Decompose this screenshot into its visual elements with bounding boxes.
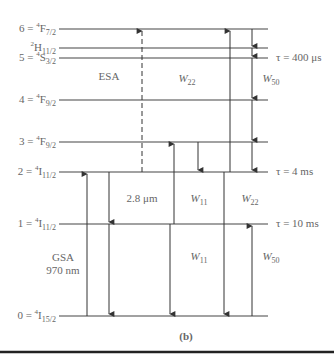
lifetime-4ms: τ = 4 ms <box>276 165 313 177</box>
level-3-label: 3 = 4F9/2 <box>19 134 56 150</box>
w22-upper-label: W22 <box>178 72 195 87</box>
w50-upper-label: W50 <box>262 72 279 87</box>
wavelength-2.8um-label: 2.8 μm <box>127 192 158 204</box>
w50-low-label: W50 <box>262 250 279 265</box>
lifetime-400us: τ = 400 μs <box>276 51 322 63</box>
w22-mid-label: W22 <box>241 192 258 207</box>
panel-label: (b) <box>179 330 193 343</box>
energy-level-diagram: 6 = 4F7/2 2H11/2 5 = 4S3/2 4 = 4F9/2 3 =… <box>0 0 334 361</box>
level-2-label: 2 = 4I11/2 <box>18 164 56 180</box>
lifetime-10ms: τ = 10 ms <box>276 217 319 229</box>
transition-labels: ESA W22 W50 2.8 μm W11 W22 GSA 970 nm W1… <box>46 70 279 276</box>
level-labels: 6 = 4F7/2 2H11/2 5 = 4S3/2 4 = 4F9/2 3 =… <box>17 21 56 324</box>
w11-low-label: W11 <box>191 250 208 265</box>
lifetime-labels: τ = 400 μs τ = 4 ms τ = 10 ms <box>276 51 322 229</box>
level-0-label: 0 = 4I15/2 <box>17 308 56 324</box>
level-4-label: 4 = 4F9/2 <box>19 92 56 108</box>
gsa-label: GSA <box>52 251 74 263</box>
level-6-label: 6 = 4F7/2 <box>19 21 56 37</box>
esa-label: ESA <box>99 70 120 82</box>
level-1-label: 1 = 4I11/2 <box>18 216 56 232</box>
gsa-wavelength-label: 970 nm <box>46 264 80 276</box>
w11-mid-label: W11 <box>191 192 208 207</box>
energy-levels <box>59 29 268 316</box>
